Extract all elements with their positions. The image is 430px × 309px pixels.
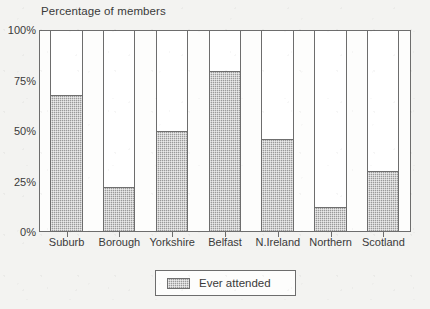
bar-column-yorkshire[interactable]: [156, 31, 188, 231]
bar-column-n-ireland[interactable]: [261, 31, 293, 231]
x-tick-label-n-ireland: N.Ireland: [255, 236, 300, 248]
bar-fill-scotland[interactable]: [368, 171, 398, 231]
y-axis: 100% 75% 50% 25% 0%: [0, 0, 36, 309]
chart-legend: Ever attended: [155, 270, 296, 296]
x-tick-label-yorkshire: Yorkshire: [149, 236, 194, 248]
x-tick-label-suburb: Suburb: [49, 236, 84, 248]
bar-column-scotland[interactable]: [367, 31, 399, 231]
bar-fill-yorkshire[interactable]: [157, 131, 187, 231]
x-tick-label-northern: Northern: [309, 236, 352, 248]
bar-chart: Percentage of members 100% 75% 50% 25% 0…: [0, 0, 430, 309]
plot-area: [39, 30, 411, 232]
y-tick-label-50: 50%: [14, 125, 36, 137]
bar-fill-northern[interactable]: [315, 207, 345, 231]
bar-fill-borough[interactable]: [104, 187, 134, 231]
bar-fill-n-ireland[interactable]: [262, 139, 292, 231]
x-tick-label-belfast: Belfast: [208, 236, 242, 248]
bar-fill-belfast[interactable]: [210, 71, 240, 231]
x-tick-label-scotland: Scotland: [362, 236, 405, 248]
x-tick-label-borough: Borough: [99, 236, 141, 248]
legend-swatch-ever-attended: [167, 278, 190, 289]
chart-title: Percentage of members: [41, 5, 166, 17]
bar-fill-suburb[interactable]: [51, 95, 81, 231]
bar-column-northern[interactable]: [314, 31, 346, 231]
y-tick-label-100: 100%: [8, 24, 36, 36]
bar-column-borough[interactable]: [103, 31, 135, 231]
y-tick-label-0: 0%: [20, 226, 36, 238]
y-tick-label-75: 75%: [14, 75, 36, 87]
legend-label-ever-attended: Ever attended: [199, 277, 271, 289]
y-tick-label-25: 25%: [14, 176, 36, 188]
bar-column-suburb[interactable]: [50, 31, 82, 231]
bar-column-belfast[interactable]: [209, 31, 241, 231]
